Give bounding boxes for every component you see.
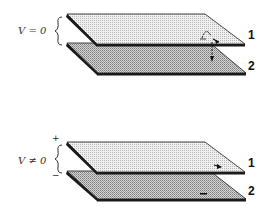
plate-1 xyxy=(66,142,245,175)
voltage-label: V = 0 xyxy=(18,25,47,36)
plate-2 xyxy=(66,43,246,76)
plate-2-label: 2 xyxy=(248,184,255,198)
voltage-label: V ≠ 0 xyxy=(18,155,47,166)
plate-1-label: 1 xyxy=(248,28,255,42)
plate-1-label: 1 xyxy=(248,156,255,170)
polarity-plus: + xyxy=(52,133,60,143)
parallel-plate-diagram: V = 0 1 2 V ≠ 0 + − xyxy=(0,0,267,211)
plate-2 xyxy=(66,171,246,202)
plate-2-label: 2 xyxy=(248,59,255,73)
panel-uncharged: V = 0 1 2 xyxy=(18,14,255,76)
panel-charged: V ≠ 0 + − 1 2 xyxy=(18,133,255,202)
brace-icon xyxy=(55,145,62,173)
minus-charge-icon xyxy=(200,193,207,195)
brace-icon xyxy=(55,17,62,45)
